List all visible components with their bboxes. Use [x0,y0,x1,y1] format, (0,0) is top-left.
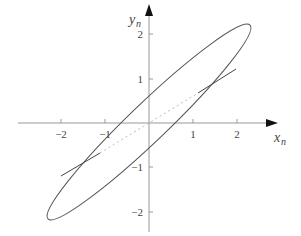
y-tick-label: −2 [131,206,143,218]
svg-text:y: y [127,12,136,27]
x-axis-label: x n [273,130,286,147]
phase-plot: −2 −1 1 2 2 1 −1 −2 y n x n [0,0,301,236]
invariant-line-upper [198,69,236,93]
svg-text:x: x [273,130,281,145]
y-axis-arrow-icon [145,4,153,16]
y-tick-label: 2 [138,28,144,40]
x-tick-label: 2 [234,128,240,140]
x-tick-label: −1 [99,128,111,140]
svg-text:n: n [136,18,141,29]
x-tick-label: −2 [55,128,67,140]
x-tick-label: 1 [190,128,196,140]
x-axis-arrow-icon [266,119,278,127]
invariant-line-lower [61,153,100,176]
svg-text:n: n [281,136,286,147]
y-tick-label: 1 [138,73,144,85]
y-axis-label: y n [127,12,141,29]
